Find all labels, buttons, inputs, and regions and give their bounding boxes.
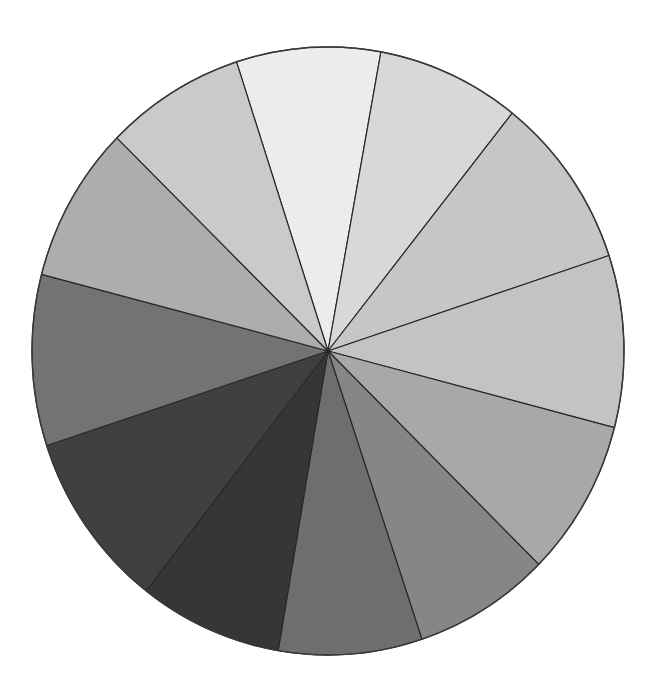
pie-wedges [32,47,624,655]
pie-chart [0,0,659,689]
